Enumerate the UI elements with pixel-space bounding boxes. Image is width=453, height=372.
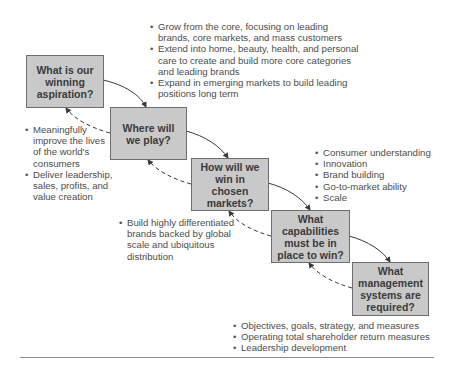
management-systems-notes: Objectives, goals, strategy, and measure… xyxy=(233,320,453,354)
step-box-how-to-win: How will we win in chosen markets? xyxy=(191,158,269,211)
step-question: What is our winning aspiration? xyxy=(31,64,99,100)
forward-arrow-3 xyxy=(268,183,310,210)
note-item: Meaningfully improve the lives of the wo… xyxy=(25,124,115,169)
forward-arrow-4 xyxy=(349,236,390,262)
step-box-capabilities: What capabilities must be in place to wi… xyxy=(271,210,350,263)
note-item: Operating total shareholder return measu… xyxy=(233,331,453,342)
step-question: Where will we play? xyxy=(115,122,182,146)
note-item: Expand in emerging markets to build lead… xyxy=(150,77,360,99)
note-item: Brand building xyxy=(315,169,453,180)
feedback-arrow-4 xyxy=(309,263,352,288)
step-question: What management systems are required? xyxy=(357,265,424,313)
aspiration-notes: Meaningfully improve the lives of the wo… xyxy=(25,124,115,202)
forward-arrow-1 xyxy=(103,80,146,107)
note-item: Grow from the core, focusing on leading … xyxy=(150,21,360,43)
note-item: Go-to-market ability xyxy=(315,181,453,192)
how-to-win-notes: Build highly differentiated brands backe… xyxy=(119,217,239,262)
capabilities-notes: Consumer understanding Innovation Brand … xyxy=(315,147,453,203)
feedback-arrow-2 xyxy=(148,160,191,184)
note-item: Innovation xyxy=(315,158,453,169)
where-to-play-notes: Grow from the core, focusing on leading … xyxy=(150,21,360,99)
note-item: Scale xyxy=(315,192,453,203)
note-item: Objectives, goals, strategy, and measure… xyxy=(233,320,453,331)
note-item: Consumer understanding xyxy=(315,147,453,158)
note-item: Build highly differentiated brands backe… xyxy=(119,217,239,262)
bottom-divider xyxy=(20,357,434,358)
step-box-management-systems: What management systems are required? xyxy=(352,262,429,316)
step-box-where-to-play: Where will we play? xyxy=(110,107,187,160)
step-question: How will we win in chosen markets? xyxy=(196,161,264,209)
step-question: What capabilities must be in place to wi… xyxy=(276,213,345,261)
note-item: Deliver leadership, sales, profits, and … xyxy=(25,169,115,203)
note-item: Leadership development xyxy=(233,342,453,353)
forward-arrow-2 xyxy=(186,131,228,158)
step-box-winning-aspiration: What is our winning aspiration? xyxy=(26,55,104,108)
note-item: Extend into home, beauty, health, and pe… xyxy=(150,43,360,77)
